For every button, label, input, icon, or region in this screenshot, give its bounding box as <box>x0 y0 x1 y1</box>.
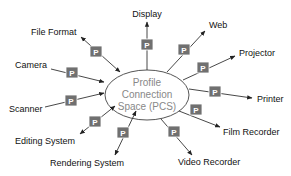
center-line-3: Space (PCS) <box>118 101 176 112</box>
svg-text:P: P <box>193 106 199 115</box>
svg-text:P: P <box>68 97 74 106</box>
pcs-ellipse: Profile Connection Space (PCS) <box>105 70 189 120</box>
svg-text:P: P <box>92 118 98 127</box>
svg-text:P: P <box>181 46 187 55</box>
node-label-video-recorder: Video Recorder <box>178 157 240 167</box>
pcs-diagram: Profile Connection Space (PCS) P Display… <box>0 0 291 176</box>
svg-text:P: P <box>171 128 177 137</box>
node-label-scanner: Scanner <box>9 104 43 114</box>
node-label-printer: Printer <box>257 94 284 104</box>
center-line-2: Connection <box>122 89 173 100</box>
node-display: P Display <box>132 9 162 70</box>
svg-text:P: P <box>212 88 218 97</box>
node-label-display: Display <box>132 9 162 19</box>
svg-text:P: P <box>120 129 126 138</box>
center-line-1: Profile <box>133 77 162 88</box>
node-camera: P Camera <box>15 60 104 82</box>
node-label-web: Web <box>209 20 227 30</box>
node-label-projector: Projector <box>239 48 275 58</box>
node-projector: P Projector <box>183 48 275 80</box>
node-label-editing-system: Editing System <box>15 136 75 146</box>
svg-text:P: P <box>144 41 150 50</box>
node-label-file-format: File Format <box>31 27 77 37</box>
svg-text:P: P <box>69 69 75 78</box>
svg-text:P: P <box>93 48 99 57</box>
node-label-rendering-system: Rendering System <box>50 158 124 168</box>
node-film-recorder: P Film Recorder <box>179 104 280 137</box>
node-label-camera: Camera <box>15 60 47 70</box>
node-label-film-recorder: Film Recorder <box>223 127 280 137</box>
node-printer: P Printer <box>189 86 284 104</box>
svg-text:P: P <box>200 64 206 73</box>
node-scanner: P Scanner <box>9 93 104 114</box>
